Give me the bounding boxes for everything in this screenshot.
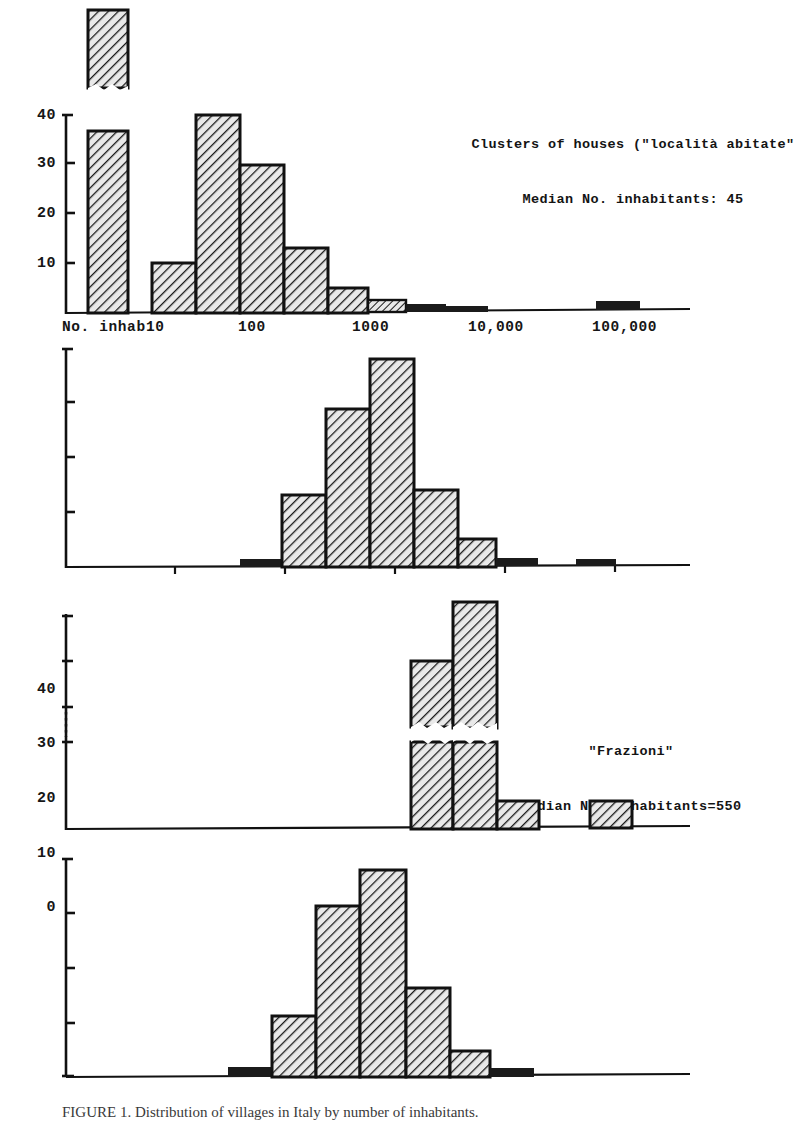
chart-comuni — [0, 585, 804, 840]
ytick-label: 10 — [14, 256, 56, 271]
chart-parishes — [0, 840, 804, 1103]
y-axis — [62, 114, 75, 314]
y-axis — [62, 614, 73, 830]
figure-root: 40 30 20 10 No. inhab. 10 100 1000 10,00… — [0, 0, 804, 1123]
ytick-label: 20 — [14, 206, 56, 221]
chart-frazioni — [0, 340, 804, 585]
bar-truncated-top — [88, 10, 128, 90]
xaxis-inhab-label: No. inhab. — [62, 320, 155, 335]
bars — [411, 735, 632, 829]
panel-parishes: 40 30 20 10 Parishes Median No. inhabita… — [0, 840, 804, 1103]
xtick-label-100: 100 — [238, 320, 266, 335]
panel-comuni: 50 40 30 10 0 "Comuni" (Smallest adminis… — [0, 585, 804, 840]
annotation-line: Clusters of houses ("località abitate" — [462, 136, 804, 154]
annotation-clusters: Clusters of houses ("località abitate" M… — [462, 100, 804, 246]
y-axis — [62, 858, 75, 1077]
xtick-label-100000: 100,000 — [592, 320, 657, 335]
panel-clusters-of-houses: 40 30 20 10 No. inhab. 10 100 1000 10,00… — [0, 0, 804, 340]
bars-upper-segment — [411, 602, 497, 731]
annotation-line: Median No. inhabitants: 45 — [462, 191, 804, 209]
xtick-label-1000: 1000 — [352, 320, 389, 335]
bars — [240, 359, 616, 567]
ytick-label: 30 — [14, 156, 56, 171]
bars — [228, 870, 534, 1077]
ytick-label: 40 — [14, 108, 56, 123]
panel-frazioni: 40 30 20 10 0 "Frazioni" Median No. inha… — [0, 340, 804, 585]
xtick-label-10000: 10,000 — [468, 320, 524, 335]
figure-caption: FIGURE 1. Distribution of villages in It… — [62, 1103, 762, 1123]
y-axis — [62, 348, 75, 568]
xtick-label-10: 10 — [146, 320, 165, 335]
